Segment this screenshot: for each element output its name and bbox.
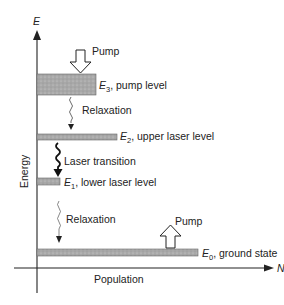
level-label-e0: E0, ground state bbox=[202, 247, 278, 262]
x-axis-label: Population bbox=[94, 273, 144, 285]
pump-up-arrow-icon bbox=[160, 225, 181, 248]
relaxation-label-upper: Relaxation bbox=[82, 104, 132, 116]
x-axis bbox=[14, 265, 274, 272]
level-bar-e2 bbox=[37, 134, 117, 140]
relaxation-lower-arrowhead-icon bbox=[56, 236, 62, 243]
y-axis-label: Energy bbox=[18, 154, 30, 188]
level-label-e2: E2, upper laser level bbox=[120, 130, 214, 145]
level-bar-e1 bbox=[37, 178, 60, 185]
level-label-e1: E1, lower laser level bbox=[64, 176, 156, 191]
y-axis-arrowhead-icon bbox=[33, 30, 41, 40]
level-bar-e3 bbox=[37, 74, 96, 95]
x-axis-arrowhead-icon bbox=[264, 265, 274, 272]
pump-label-bottom: Pump bbox=[175, 215, 203, 227]
pump-label-top: Pump bbox=[92, 45, 120, 57]
laser-transition-arrowhead-icon bbox=[54, 169, 63, 177]
level-bar-e0 bbox=[37, 249, 198, 256]
relaxation-wavy-arrow-lower-icon bbox=[58, 201, 61, 236]
pump-down-arrow-icon bbox=[70, 50, 91, 73]
relaxation-wavy-arrow-icon bbox=[70, 97, 73, 123]
relaxation-arrowhead-icon bbox=[68, 124, 74, 130]
laser-transition-wavy-arrow-icon bbox=[56, 143, 60, 171]
x-axis-symbol: N bbox=[277, 262, 284, 274]
relaxation-label-lower: Relaxation bbox=[66, 213, 116, 225]
laser-transition-label: Laser transition bbox=[64, 155, 136, 167]
energy-level-diagram: E N Energy Population E3, pump level E2,… bbox=[0, 0, 284, 305]
y-axis-symbol: E bbox=[33, 15, 41, 27]
level-label-e3: E3, pump level bbox=[99, 79, 167, 94]
